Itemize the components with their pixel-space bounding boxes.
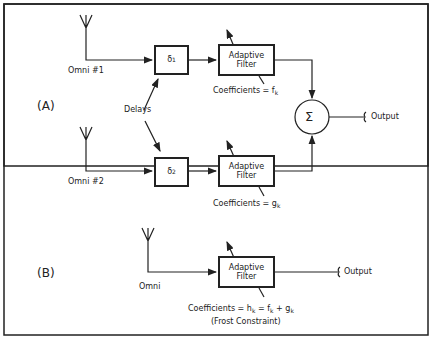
diagram-lines (0, 0, 434, 343)
filter-1-line1: Adaptive (229, 51, 264, 60)
filter-1-line2: Filter (237, 60, 257, 69)
frame-top (4, 4, 428, 166)
omni-1-label: Omni #1 (68, 67, 104, 75)
filter-b-line1: Adaptive (229, 263, 264, 272)
adaptive-filter-2: Adaptive Filter (218, 155, 275, 187)
frost-constraint-label: (Frost Constraint) (211, 318, 281, 326)
omni-2-label: Omni #2 (68, 178, 104, 186)
filter-2-line2: Filter (237, 171, 257, 180)
output-a-label: Output (371, 113, 399, 121)
frame (4, 4, 428, 335)
delay-1-block: δ1 (154, 45, 189, 75)
section-b-label: (B) (37, 267, 55, 279)
output-b-label: Output (344, 268, 372, 276)
delay-2-block: δ2 (154, 157, 189, 187)
coefficients-h-label: Coefficients = hk = fk + gk (188, 305, 294, 314)
filter-2-line1: Adaptive (229, 162, 264, 171)
coefficients-g-label: Coefficients = gk (213, 200, 280, 209)
adaptive-filter-1: Adaptive Filter (218, 44, 275, 76)
omni-label: Omni (139, 283, 160, 291)
delays-label: Delays (124, 106, 151, 114)
filter-b-line2: Filter (237, 272, 257, 281)
adaptive-filter-b: Adaptive Filter (218, 256, 275, 288)
coefficients-f-label: Coefficients = fk (213, 87, 278, 96)
summer-sigma: Σ (305, 110, 313, 123)
section-a-label: (A) (37, 100, 55, 112)
